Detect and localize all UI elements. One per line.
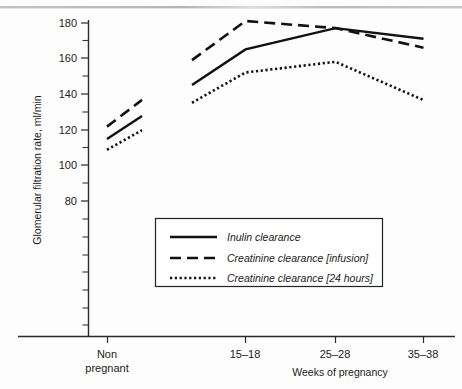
series-creatinine-infusion-line bbox=[192, 21, 424, 60]
series-creatinine-24h-nonpregnant bbox=[107, 130, 142, 150]
pregnancy-series-group bbox=[192, 21, 424, 103]
y-axis-title: Glomerular filtration rate, ml/min bbox=[31, 95, 43, 245]
x-tick-label-non-pregnant-line1: Non bbox=[97, 348, 117, 360]
legend-label-creatinine-24h: Creatinine clearance [24 hours] bbox=[227, 272, 374, 284]
y-tick-label-140: 140 bbox=[59, 88, 77, 100]
x-axis-title: Weeks of pregnancy bbox=[292, 366, 388, 378]
y-tick-label-100: 100 bbox=[59, 159, 77, 171]
line-chart-plot: 180 160 140 120 100 80 Glomerular filtra… bbox=[0, 0, 462, 389]
chart-figure: 180 160 140 120 100 80 Glomerular filtra… bbox=[0, 0, 462, 389]
non-pregnant-series-group bbox=[107, 100, 142, 150]
y-axis: 180 160 140 120 100 80 Glomerular filtra… bbox=[31, 17, 89, 336]
x-tick-label-15-18: 15–18 bbox=[230, 348, 261, 360]
legend-label-creatinine-infusion: Creatinine clearance [infusion] bbox=[227, 252, 369, 264]
x-tick-label-25-28: 25–28 bbox=[320, 348, 351, 360]
series-inulin-nonpregnant bbox=[107, 116, 142, 139]
y-tick-label-120: 120 bbox=[59, 124, 77, 136]
series-creatinine-24h-line bbox=[192, 62, 424, 103]
series-inulin-line bbox=[192, 28, 424, 85]
x-tick-label-35-38: 35–38 bbox=[408, 348, 439, 360]
y-tick-label-80: 80 bbox=[65, 195, 77, 207]
y-tick-label-180: 180 bbox=[59, 17, 77, 29]
x-tick-label-non-pregnant-line2: pregnant bbox=[85, 362, 128, 374]
legend-label-inulin: Inulin clearance bbox=[227, 231, 301, 243]
chart-legend: Inulin clearance Creatinine clearance [i… bbox=[156, 219, 383, 287]
x-axis: Non pregnant 15–18 25–28 35–38 Weeks of … bbox=[18, 337, 455, 379]
y-tick-label-160: 160 bbox=[59, 52, 77, 64]
series-creatinine-infusion-nonpregnant bbox=[107, 100, 142, 127]
